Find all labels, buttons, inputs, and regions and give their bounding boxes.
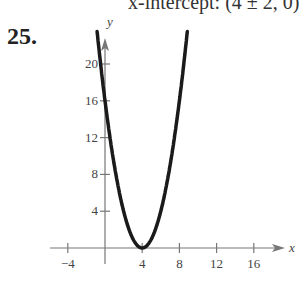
svg-text:8: 8: [92, 166, 99, 181]
parabola-curve: [97, 32, 187, 248]
svg-text:4: 4: [139, 256, 146, 271]
svg-text:x: x: [288, 240, 295, 255]
tick-labels: xy−448121648121620: [61, 14, 295, 271]
svg-text:y: y: [105, 14, 113, 29]
svg-text:12: 12: [85, 130, 98, 145]
svg-text:20: 20: [85, 56, 98, 71]
svg-text:16: 16: [85, 93, 99, 108]
svg-text:8: 8: [176, 256, 183, 271]
svg-text:−4: −4: [61, 256, 75, 271]
svg-text:4: 4: [92, 203, 99, 218]
parabola-chart: xy−448121648121620: [0, 0, 307, 282]
axes: [50, 38, 285, 264]
svg-text:12: 12: [210, 256, 223, 271]
svg-text:16: 16: [247, 256, 261, 271]
